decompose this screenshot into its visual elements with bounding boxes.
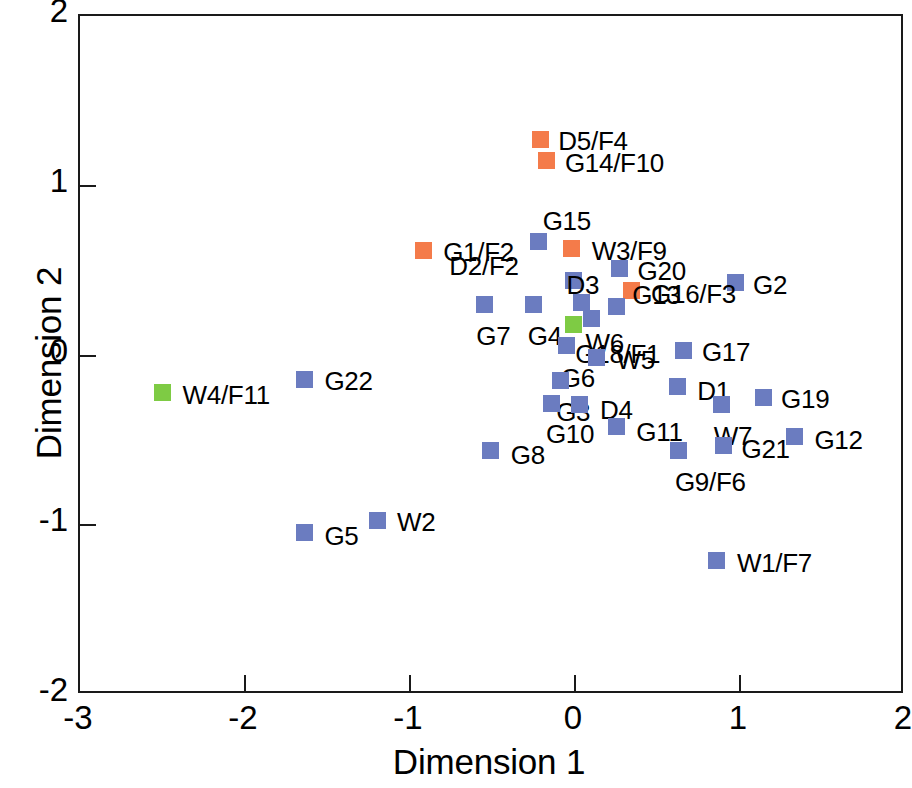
x-tick-label: -2 (208, 699, 278, 737)
data-point-label: G4 (528, 321, 562, 352)
y-tick-label: 1 (8, 162, 68, 200)
x-tick-label: 1 (703, 699, 773, 737)
data-point (369, 512, 386, 529)
data-point (713, 396, 730, 413)
data-point-label: G9/F6 (675, 467, 746, 498)
data-point (558, 337, 575, 354)
data-point (755, 389, 772, 406)
data-point-label: G7 (476, 321, 510, 352)
y-tick-label: 0 (8, 332, 68, 370)
x-axis-title: Dimension 1 (75, 742, 903, 782)
data-point (563, 240, 580, 257)
data-point (296, 371, 313, 388)
scatter-plot-figure: Dimension 2 Dimension 1 D5/F4G14/F10G15G… (0, 0, 912, 788)
data-point-label: G15 (543, 206, 591, 237)
data-point (296, 524, 313, 541)
data-point-label: G10 (546, 419, 594, 450)
x-tick-mark (574, 675, 576, 691)
data-point-label: W2 (397, 507, 435, 538)
data-point-label: G17 (702, 337, 750, 368)
x-tick-label: -1 (373, 699, 443, 737)
data-point (552, 372, 569, 389)
data-point (608, 418, 625, 435)
x-tick-mark (244, 675, 246, 691)
data-point (154, 384, 171, 401)
data-point (532, 131, 549, 148)
data-point-label: W4/F11 (183, 380, 270, 411)
x-tick-label: 0 (538, 699, 608, 737)
y-tick-mark (80, 355, 96, 357)
data-point-label: G19 (781, 384, 829, 415)
y-tick-mark (80, 524, 96, 526)
data-point (415, 242, 432, 259)
data-point-label: W1/F7 (737, 548, 812, 579)
data-point (608, 298, 625, 315)
data-point-label: G14/F10 (565, 148, 664, 179)
data-point-label: W5 (616, 345, 654, 376)
y-tick-mark (80, 185, 96, 187)
x-tick-label: 2 (868, 699, 912, 737)
data-point (476, 296, 493, 313)
data-point (525, 296, 542, 313)
y-tick-label: -1 (8, 501, 68, 539)
data-point (670, 442, 687, 459)
data-point (482, 442, 499, 459)
data-point-label: G8 (511, 440, 545, 471)
data-point-label: D3 (567, 270, 600, 301)
data-point (675, 342, 692, 359)
x-tick-label: -3 (43, 699, 113, 737)
data-point (583, 310, 600, 327)
data-point (565, 316, 582, 333)
data-point (543, 395, 560, 412)
data-point (538, 152, 555, 169)
data-point-label: G2 (753, 270, 787, 301)
y-tick-label: 2 (8, 0, 68, 30)
data-point (708, 552, 725, 569)
data-point-label: G13 (632, 280, 680, 311)
data-point-label: G21 (742, 434, 790, 465)
data-point (715, 437, 732, 454)
plot-area: D5/F4G14/F10G15G1/F2W3/F9G20D2/F2G2G16/F… (78, 14, 903, 693)
data-point (571, 396, 588, 413)
data-point-label: G12 (814, 425, 862, 456)
data-point-label: G22 (324, 366, 372, 397)
data-point (669, 378, 686, 395)
data-point-label: D2/F2 (449, 251, 518, 282)
data-point (611, 260, 628, 277)
x-tick-mark (409, 675, 411, 691)
data-point-label: G5 (324, 521, 358, 552)
x-tick-mark (739, 675, 741, 691)
